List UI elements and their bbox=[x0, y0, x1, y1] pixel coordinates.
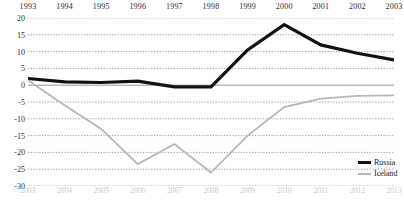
y-axis-tick: 10 bbox=[17, 47, 25, 56]
plot-area bbox=[28, 18, 394, 186]
y-axis-tick: 15 bbox=[17, 30, 25, 39]
legend-label-iceland: Iceland bbox=[374, 169, 398, 178]
top-axis-tick: 2001 bbox=[312, 2, 329, 11]
bottom-axis-tick: 2013 bbox=[387, 186, 402, 195]
top-axis-tick: 1994 bbox=[56, 2, 73, 11]
top-axis-tick: 1999 bbox=[239, 2, 256, 11]
legend-swatch-iceland bbox=[358, 173, 371, 175]
line-chart: 1993199419951996199719981999200020012002… bbox=[0, 0, 404, 201]
bottom-axis-tick: 2003 bbox=[21, 186, 36, 195]
legend-label-russia: Russia bbox=[374, 158, 395, 167]
top-axis-tick: 1997 bbox=[166, 2, 183, 11]
bottom-axis-tick: 2012 bbox=[350, 186, 365, 195]
bottom-axis-tick: 2006 bbox=[130, 186, 145, 195]
bottom-axis-tick: 2011 bbox=[313, 186, 328, 195]
legend-item-iceland: Iceland bbox=[358, 168, 404, 179]
bottom-axis-tick: 2005 bbox=[94, 186, 109, 195]
top-axis-tick: 1998 bbox=[203, 2, 220, 11]
chart-legend: Russia Iceland bbox=[358, 157, 404, 179]
top-axis-tick: 2000 bbox=[276, 2, 293, 11]
bottom-axis-tick: 2004 bbox=[57, 186, 72, 195]
y-axis-tick: -15 bbox=[14, 131, 25, 140]
series-line-iceland bbox=[28, 80, 394, 172]
y-axis-tick: 5 bbox=[21, 64, 25, 73]
bottom-axis-tick: 2008 bbox=[204, 186, 219, 195]
y-axis-labels: 20151050-5-10-15-20-25-30 bbox=[0, 0, 28, 201]
top-axis-tick: 1995 bbox=[93, 2, 110, 11]
y-axis-tick: 20 bbox=[17, 14, 25, 23]
y-axis-tick: 0 bbox=[21, 81, 25, 90]
y-axis-tick: -10 bbox=[14, 114, 25, 123]
y-axis-tick: -25 bbox=[14, 165, 25, 174]
bottom-axis-tick: 2007 bbox=[167, 186, 182, 195]
bottom-axis-tick: 2010 bbox=[277, 186, 292, 195]
bottom-axis: 2003200420052006200720082009201020112012… bbox=[0, 186, 404, 201]
y-axis-tick: -20 bbox=[14, 148, 25, 157]
y-axis-tick: -5 bbox=[18, 98, 25, 107]
legend-item-russia: Russia bbox=[358, 157, 404, 168]
bottom-axis-tick: 2009 bbox=[240, 186, 255, 195]
legend-swatch-russia bbox=[358, 161, 371, 164]
top-axis-tick: 2002 bbox=[349, 2, 366, 11]
plot-svg bbox=[28, 18, 394, 186]
top-axis: 1993199419951996199719981999200020012002… bbox=[0, 0, 404, 18]
top-axis-tick: 2003 bbox=[386, 2, 403, 11]
top-axis-tick: 1996 bbox=[129, 2, 146, 11]
series-line-russia bbox=[28, 25, 394, 87]
